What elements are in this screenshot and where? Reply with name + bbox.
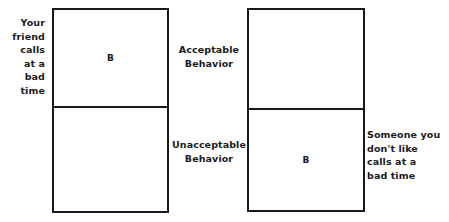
right-unacceptable-cell: B <box>249 110 363 210</box>
left-situation-label: Your friend calls at a bad time <box>0 16 45 97</box>
right-situation-label: Someone you don't like calls at a bad ti… <box>367 128 449 182</box>
unacceptable-behavior-label: Unacceptable Behavior <box>169 138 249 165</box>
right-acceptable-cell <box>249 10 363 108</box>
left-acceptable-cell: B <box>54 10 167 106</box>
left-unacceptable-cell <box>54 108 167 211</box>
left-behavior-window: B <box>52 8 169 213</box>
behavior-marker: B <box>107 54 114 63</box>
acceptable-behavior-label: Acceptable Behavior <box>176 43 242 70</box>
diagram-canvas: Your friend calls at a bad time B Accept… <box>0 0 449 222</box>
right-behavior-window: B <box>247 8 365 212</box>
behavior-marker: B <box>302 156 309 165</box>
